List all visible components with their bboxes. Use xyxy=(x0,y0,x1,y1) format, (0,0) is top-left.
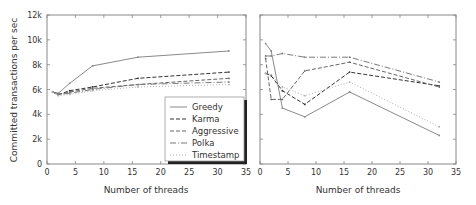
data-point xyxy=(228,77,230,79)
data-point xyxy=(304,70,306,72)
data-point xyxy=(270,74,272,76)
data-point xyxy=(282,90,284,92)
data-point xyxy=(349,61,351,63)
right-plot-frame xyxy=(260,15,456,164)
data-point xyxy=(137,86,139,88)
x-tick-label: 10 xyxy=(311,168,321,177)
data-point xyxy=(349,56,351,58)
data-point xyxy=(228,84,230,86)
left-x-axis-label: Number of threads xyxy=(104,185,189,195)
right-plot-lines xyxy=(265,43,440,137)
data-point xyxy=(282,107,284,109)
x-tick-label: 35 xyxy=(451,168,461,177)
data-point xyxy=(282,53,284,55)
legend-label-timestamp: Timestamp xyxy=(191,150,239,160)
data-point xyxy=(304,104,306,106)
left-plot: 02k4k6k8k10k12k 05101520253035 Committed… xyxy=(9,11,251,195)
x-tick-label: 25 xyxy=(184,168,194,177)
data-point xyxy=(438,126,440,128)
y-tick-label: 10k xyxy=(27,36,42,45)
y-axis-label: Committed transactions per sec xyxy=(9,18,19,162)
data-point xyxy=(265,72,267,74)
series-line-greedy xyxy=(53,51,229,93)
series-line-polka xyxy=(266,54,440,83)
y-tick-label: 0 xyxy=(37,160,42,169)
right-plot: 05101520253035 Number of threads xyxy=(257,15,461,195)
right-x-axis-ticks: 05101520253035 xyxy=(257,15,461,177)
x-tick-label: 35 xyxy=(241,168,251,177)
data-point xyxy=(304,116,306,118)
x-tick-label: 30 xyxy=(423,168,433,177)
x-tick-label: 15 xyxy=(127,168,137,177)
data-point xyxy=(57,95,59,97)
data-point xyxy=(282,86,284,88)
x-tick-label: 5 xyxy=(285,168,290,177)
data-point xyxy=(438,135,440,137)
data-point xyxy=(304,56,306,58)
series-line-greedy xyxy=(266,44,440,136)
data-point xyxy=(137,77,139,79)
data-point xyxy=(349,71,351,73)
right-y-axis-ticks xyxy=(260,15,456,164)
x-tick-label: 0 xyxy=(44,168,49,177)
y-tick-label: 8k xyxy=(32,61,42,70)
left-plot-lines xyxy=(52,50,230,97)
data-point xyxy=(137,84,139,86)
x-tick-label: 10 xyxy=(99,168,109,177)
x-tick-label: 20 xyxy=(367,168,377,177)
data-point xyxy=(270,50,272,52)
data-point xyxy=(92,90,94,92)
y-tick-label: 4k xyxy=(32,110,42,119)
data-point xyxy=(265,43,267,45)
x-tick-label: 25 xyxy=(395,168,405,177)
data-point xyxy=(270,99,272,101)
data-point xyxy=(228,50,230,52)
data-point xyxy=(52,91,54,93)
x-tick-label: 20 xyxy=(156,168,166,177)
legend-label-karma: Karma xyxy=(192,114,219,124)
legend: GreedyKarmaAggressivePolkaTimestamp xyxy=(165,97,247,164)
data-point xyxy=(265,55,267,57)
data-point xyxy=(270,55,272,57)
data-point xyxy=(137,56,139,58)
x-tick-label: 0 xyxy=(257,168,262,177)
data-point xyxy=(69,82,71,84)
data-point xyxy=(228,71,230,73)
data-point xyxy=(69,94,71,96)
legend-label-aggressive: Aggressive xyxy=(192,126,239,136)
legend-label-greedy: Greedy xyxy=(192,102,223,112)
chart-figure: 02k4k6k8k10k12k 05101520253035 Committed… xyxy=(0,0,476,205)
data-point xyxy=(228,81,230,83)
data-point xyxy=(92,65,94,67)
y-tick-label: 12k xyxy=(27,11,42,20)
data-point xyxy=(438,86,440,88)
data-point xyxy=(349,81,351,83)
right-x-axis-label: Number of threads xyxy=(316,185,401,195)
y-tick-label: 6k xyxy=(32,86,42,95)
x-tick-label: 30 xyxy=(212,168,222,177)
data-point xyxy=(438,81,440,83)
y-tick-label: 2k xyxy=(32,135,42,144)
data-point xyxy=(304,95,306,97)
data-point xyxy=(265,58,267,60)
data-point xyxy=(349,91,351,93)
series-line-karma xyxy=(53,72,229,94)
legend-label-polka: Polka xyxy=(192,138,214,148)
x-tick-label: 5 xyxy=(73,168,78,177)
x-tick-label: 15 xyxy=(339,168,349,177)
data-point xyxy=(282,99,284,101)
